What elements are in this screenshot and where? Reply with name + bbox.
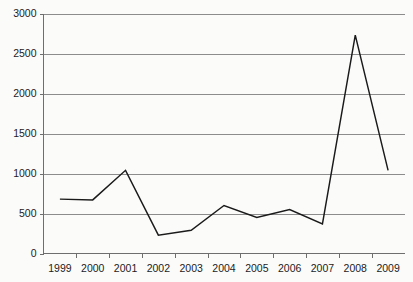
y-tick-label-0: 0	[31, 247, 37, 259]
x-tick-label-2008: 2008	[344, 262, 368, 274]
chart-background	[0, 0, 413, 282]
x-tick-label-2004: 2004	[212, 262, 236, 274]
y-tick-label-2500: 2500	[13, 47, 37, 59]
x-tick-label-2006: 2006	[278, 262, 302, 274]
x-tick-label-2000: 2000	[81, 262, 105, 274]
line-chart: 050010001500200025003000 199920002001200…	[0, 0, 413, 282]
y-tick-label-3000: 3000	[13, 7, 37, 19]
x-tick-label-2009: 2009	[376, 262, 400, 274]
x-axis-tick-labels: 1999200020012002200320042005200620072008…	[48, 262, 400, 274]
y-tick-label-1000: 1000	[13, 167, 37, 179]
x-tick-label-2007: 2007	[311, 262, 335, 274]
x-tick-label-1999: 1999	[48, 262, 72, 274]
x-tick-label-2002: 2002	[147, 262, 171, 274]
x-tick-label-2005: 2005	[245, 262, 269, 274]
x-tick-label-2001: 2001	[114, 262, 138, 274]
y-tick-label-2000: 2000	[13, 87, 37, 99]
y-tick-label-500: 500	[19, 207, 37, 219]
y-tick-label-1500: 1500	[13, 127, 37, 139]
x-tick-label-2003: 2003	[180, 262, 204, 274]
chart-canvas: 050010001500200025003000 199920002001200…	[0, 0, 413, 282]
